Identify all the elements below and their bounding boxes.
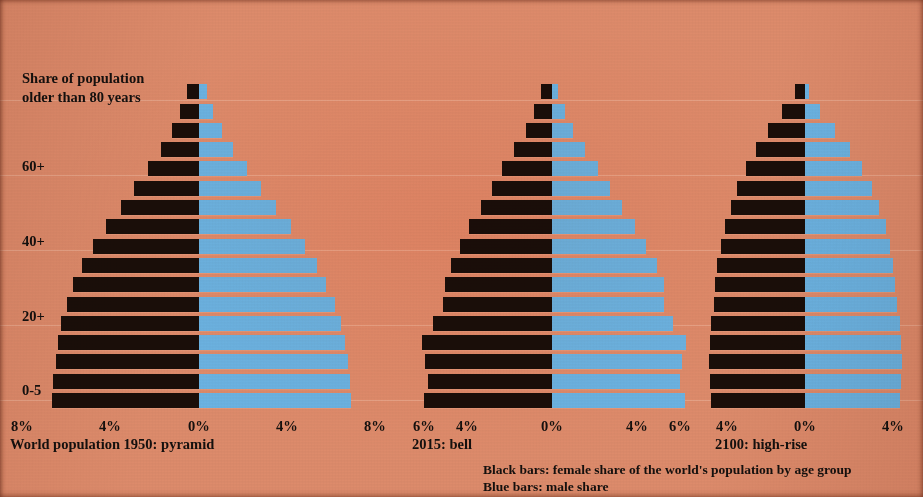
bar-female [746, 161, 805, 176]
bar-male [805, 161, 862, 176]
bar-male [805, 335, 901, 350]
bar-male [805, 200, 879, 215]
x-axis-tick: 4% [882, 418, 904, 435]
bar-female [715, 277, 805, 292]
bar-female [768, 123, 805, 138]
bar-female [711, 316, 805, 331]
bar-male [805, 393, 900, 408]
bar-female [731, 200, 805, 215]
bar-male [805, 316, 900, 331]
bar-male [805, 181, 872, 196]
bar-female [737, 181, 805, 196]
bar-female [711, 393, 805, 408]
bar-female [717, 258, 805, 273]
x-axis-tick: 4% [716, 418, 738, 435]
bar-female [709, 354, 805, 369]
bar-female [795, 84, 805, 99]
legend-item-female: Black bars: female share of the world's … [483, 461, 852, 478]
bar-female [725, 219, 805, 234]
bar-female [756, 142, 805, 157]
figure-canvas: Share of population older than 80 years … [0, 0, 923, 497]
bar-male [805, 277, 895, 292]
bar-male [805, 123, 835, 138]
bar-female [782, 104, 805, 119]
x-axis-tick: 0% [794, 418, 816, 435]
bar-female [710, 374, 805, 389]
bar-male [805, 354, 902, 369]
bar-female [721, 239, 805, 254]
bar-male [805, 374, 901, 389]
chart-caption: 2100: high-rise [715, 436, 807, 453]
legend: Black bars: female share of the world's … [483, 461, 852, 495]
bar-male [805, 104, 820, 119]
bar-male [805, 142, 850, 157]
bar-male [805, 219, 886, 234]
bar-female [714, 297, 805, 312]
bar-female [710, 335, 805, 350]
bar-male [805, 297, 897, 312]
bar-male [805, 239, 890, 254]
legend-item-male: Blue bars: male share [483, 478, 852, 495]
bar-male [805, 84, 809, 99]
chart-3: 4%0%4%2100: high-rise [0, 0, 923, 497]
bar-male [805, 258, 893, 273]
